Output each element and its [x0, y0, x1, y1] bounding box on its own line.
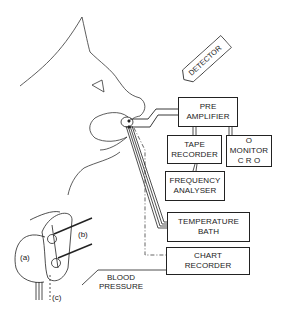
label-a: (a) [20, 253, 30, 262]
cat-eye-icon [92, 80, 104, 92]
vessel-b-outline [42, 213, 72, 281]
frequency-analyser-box: FREQUENCY ANALYSER [165, 171, 225, 201]
diagram-canvas: DETECTOR PRE AMPLIFIER TAPE RECORDER O M… [0, 0, 283, 310]
blood-pressure-label: BLOOD PRESSURE [96, 273, 146, 291]
label-c: (c) [52, 293, 61, 302]
electrode-c-icon [52, 259, 61, 268]
monitor-cro-box: O MONITOR C R O [226, 135, 272, 167]
electrode-probe-icon [121, 117, 133, 127]
cat-jaw-outline [90, 113, 128, 142]
tape-recorder-box: TAPE RECORDER [167, 135, 222, 164]
label-b: (b) [78, 230, 88, 239]
electrode-b-icon [48, 235, 57, 244]
chart-recorder-box: CHART RECORDER [166, 247, 250, 275]
pre-amplifier-box: PRE AMPLIFIER [178, 97, 238, 127]
temperature-bath-box: TEMPERATURE BATH [167, 212, 250, 242]
cat-head-outline [20, 17, 145, 120]
cat-neck-outline [68, 152, 120, 195]
